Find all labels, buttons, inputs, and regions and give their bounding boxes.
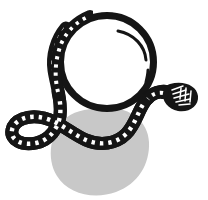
illustration-canvas: Snake coiled around a ball (0, 0, 208, 200)
artwork-svg (0, 0, 208, 200)
